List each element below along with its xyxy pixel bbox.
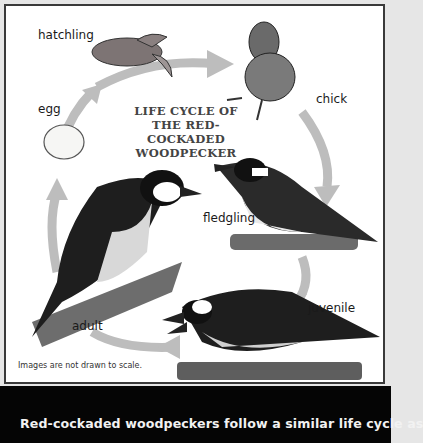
stage-label-juvenile: juvenile — [308, 301, 355, 315]
scale-note: Images are not drawn to scale. — [18, 361, 142, 370]
caption-text: Red-cockaded woodpeckers follow a simila… — [20, 416, 423, 431]
title-line-1: LIFE CYCLE OF — [116, 104, 256, 118]
diagram-panel: LIFE CYCLE OF THE RED-COCKADED WOODPECKE… — [4, 4, 385, 384]
diagram-title: LIFE CYCLE OF THE RED-COCKADED WOODPECKE… — [116, 104, 256, 160]
caption-bar: Red-cockaded woodpeckers follow a simila… — [0, 386, 391, 443]
fledgling-icon — [214, 158, 378, 250]
egg-icon — [44, 125, 84, 159]
title-line-2: THE RED-COCKADED — [116, 118, 256, 146]
stage-label-adult: adult — [72, 319, 103, 333]
title-line-3: WOODPECKER — [116, 146, 256, 160]
stage-label-fledgling: fledgling — [203, 211, 255, 225]
stage-label-hatchling: hatchling — [38, 28, 94, 42]
stage-label-chick: chick — [316, 92, 347, 106]
stage-label-egg: egg — [38, 102, 61, 116]
life-cycle-artwork — [6, 6, 385, 384]
